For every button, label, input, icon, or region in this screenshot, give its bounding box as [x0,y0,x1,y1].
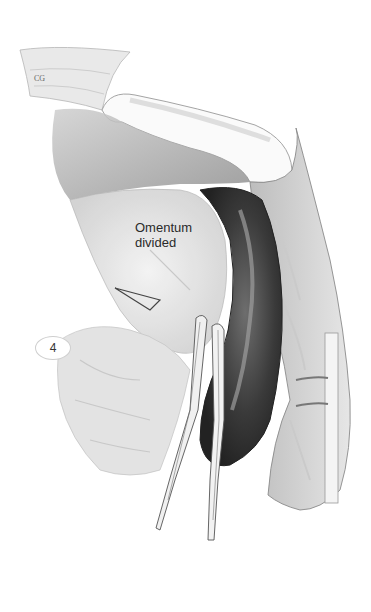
step-number: 4 [50,341,57,355]
label-line-1: Omentum [135,220,192,235]
artist-signature: CG [34,75,45,82]
retractor-strap [325,333,338,503]
surgical-illustration [0,0,371,612]
omentum-divided-label: Omentum divided [135,220,192,250]
label-line-2: divided [135,235,192,250]
step-number-badge: 4 [35,336,71,360]
